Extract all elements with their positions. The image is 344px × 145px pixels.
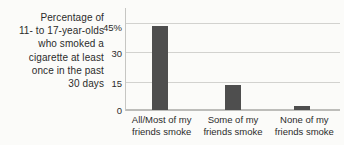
x-axis-labels: All/Most of my friends smoke Some of my …: [126, 114, 340, 138]
y-tick-label: 45%: [103, 22, 122, 33]
y-axis-title: Percentage of 11- to 17-year-olds who sm…: [0, 11, 104, 90]
plot-area: [126, 23, 340, 111]
y-tick-label: 15: [111, 77, 122, 88]
gridline: [126, 23, 340, 24]
x-tick-label: All/Most of my friends smoke: [126, 114, 197, 138]
bar: [225, 85, 241, 110]
bar: [294, 106, 310, 110]
x-tick-label: None of my friends smoke: [269, 114, 340, 138]
y-tick-label: 30: [111, 48, 122, 59]
bar-chart: Percentage of 11- to 17-year-olds who sm…: [0, 0, 344, 145]
y-axis-ticks: 45% 30 15 0: [90, 23, 122, 111]
bar: [152, 26, 168, 110]
y-tick-label: 0: [117, 105, 122, 116]
x-tick-label: Some of my friends smoke: [197, 114, 268, 138]
